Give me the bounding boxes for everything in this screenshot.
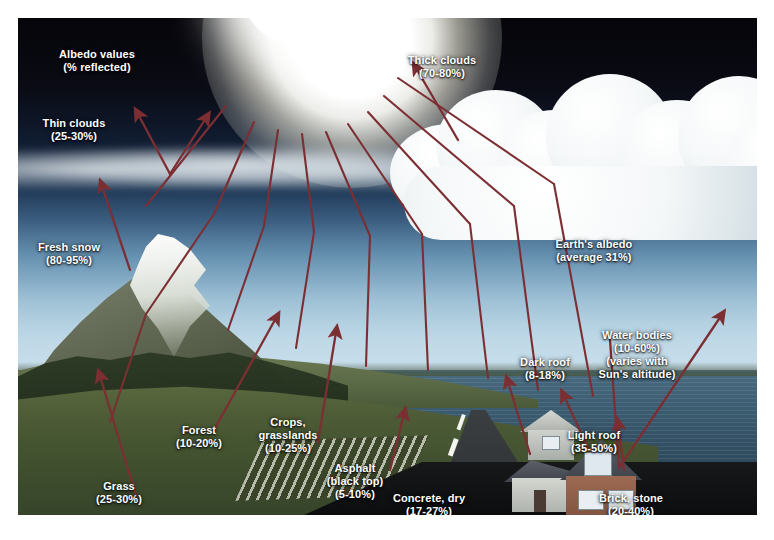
label-fresh-snow: Fresh snow (80-95%) xyxy=(18,241,125,267)
arrow-dark-roof xyxy=(508,382,530,454)
label-albedo-values: Albedo values (% reflected) xyxy=(37,48,157,74)
label-grass: Grass (25-30%) xyxy=(64,480,174,506)
label-thin-clouds: Thin clouds (25-30%) xyxy=(18,117,130,143)
label-brick-stone: Brick, stone (20-40%) xyxy=(569,492,693,515)
arrow-grass xyxy=(100,376,136,496)
illustration-frame: Albedo values (% reflected) Thin clouds … xyxy=(18,18,757,515)
label-concrete: Concrete, dry (17-27%) xyxy=(363,492,495,515)
label-dark-roof: Dark roof (8-18%) xyxy=(485,356,605,382)
arrow-thin-clouds-2 xyxy=(170,118,206,174)
label-earths-albedo: Earth's albedo (average 31%) xyxy=(523,238,665,264)
diagram-page: Albedo values (% reflected) Thin clouds … xyxy=(0,0,774,540)
arrow-thin-clouds xyxy=(138,114,170,174)
label-light-roof: Light roof (35-50%) xyxy=(536,429,652,455)
label-thick-clouds: Thick clouds (70-80%) xyxy=(382,54,502,80)
label-crops: Crops, grasslands (10-25%) xyxy=(231,416,345,455)
arrow-forest xyxy=(214,318,276,430)
